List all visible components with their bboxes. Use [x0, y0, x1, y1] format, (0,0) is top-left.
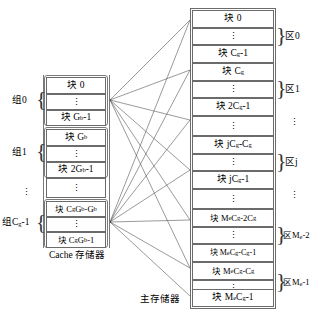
memory-cell-text: -C	[239, 140, 249, 150]
cache-cell-text: 块 0	[67, 81, 84, 91]
memory-cell-block-cg: 块 Cg	[192, 63, 274, 81]
memory-cell-text: 块 C	[222, 67, 241, 77]
cache-cell-text: -1	[86, 165, 94, 175]
cache-group-label-last: 组Cg-1	[2, 218, 30, 228]
memory-cell-text: -1	[246, 293, 254, 303]
cache-cell-text: ⋮	[72, 150, 81, 159]
memory-caption: 主存储器	[132, 295, 188, 305]
memory-zone-label-text: 区M	[283, 230, 300, 240]
memory-cell-text: ⋮	[229, 195, 238, 204]
cache-cell-text: 块 G	[61, 113, 80, 123]
cache-cell-text: -1	[87, 236, 94, 245]
mapping-diagram: 块 0 ⋮ 块 Gb-1 块 Gb ⋮ 块 2Gb-1 ⋮ 块 CgGb-Gb …	[0, 0, 318, 320]
memory-cell-text: -1	[240, 49, 248, 59]
memory-zone-label-dots-1: ⋮	[290, 118, 299, 127]
memory-zone-label-text: -1	[302, 277, 309, 287]
memory-cell-dots-gap-1: ⋮	[192, 116, 274, 136]
memory-zone-label-dots-2: ⋮	[290, 191, 299, 200]
cache-brace-0: {	[36, 88, 47, 110]
memory-cell-text: 块 M	[210, 214, 229, 223]
cache-cell-text: 块 C	[58, 236, 75, 245]
memory-cell-text: -C	[238, 249, 246, 257]
memory-cell-sub: g	[241, 69, 244, 76]
memory-zone-label-text: 区j	[285, 157, 298, 167]
cache-group-label-text: 组1	[12, 147, 27, 157]
memory-cell-dots-b: ⋮	[192, 81, 274, 98]
memory-cell-text: 块 2C	[216, 102, 239, 112]
cache-caption-text: Cache 存储器	[49, 250, 105, 260]
memory-zone-label-text: 区1	[285, 84, 300, 94]
memory-cell-text: 块 jC	[217, 175, 238, 185]
memory-caption-text: 主存储器	[140, 294, 180, 304]
memory-cell-block-jcg-1: 块 jCg-1	[192, 171, 274, 189]
memory-cell-text: ⋮	[229, 85, 238, 94]
memory-cell-text: 块 M	[212, 293, 233, 303]
memory-zone-label-text: 区M	[283, 277, 300, 287]
memory-cell-text: ⋮	[229, 32, 238, 41]
memory-zone-label-text: 区0	[285, 31, 300, 41]
memory-cell-block-mecg-1: 块 MeCg-1	[192, 289, 274, 307]
memory-cell-sub: g	[251, 268, 254, 275]
memory-cell-block-mecg-2cg: 块 MeCg-2Cg	[192, 209, 274, 227]
cache-cell-text: -1	[83, 113, 91, 123]
memory-cell-block-cg-1: 块 Cg-1	[192, 45, 274, 63]
cache-group-label-0: 组0	[12, 96, 27, 106]
memory-cell-sub: g	[253, 215, 256, 222]
cache-group-label-text: -1	[22, 217, 30, 227]
cache-cell-sub: b	[84, 134, 87, 141]
cache-cell-block-2gb-1: 块 2Gb-1	[46, 162, 106, 178]
memory-cell-block-2cg-1: 块 2Cg-1	[192, 98, 274, 116]
cache-group-label-text: ⋮	[22, 187, 31, 197]
memory-cell-block-mecg-cg: 块 MeCg-Cg	[192, 262, 274, 280]
cache-cell-text: 块 G	[65, 133, 84, 143]
cache-group-label-text: 组0	[12, 95, 27, 105]
cache-group-label-1: 组1	[12, 148, 27, 158]
cache-cell-text: 块 C	[55, 205, 72, 214]
memory-zone-label-text: -2	[302, 230, 309, 240]
memory-cell-block-0: 块 0	[192, 10, 274, 28]
memory-cell-dots-c: ⋮	[192, 154, 274, 171]
cache-cell-block-cggb-1: 块 CgGb-1	[46, 232, 106, 248]
cache-cell-text: ⋮	[72, 98, 81, 107]
memory-cell-block-jcg-cg: 块 jCg-Cg	[192, 136, 274, 154]
cache-caption: Cache 存储器	[38, 251, 116, 261]
cache-cell-sub: b	[94, 206, 97, 213]
cache-cell-dots-last: ⋮	[46, 217, 106, 232]
memory-cell-text: -1	[242, 102, 250, 112]
cache-cell-text: ⋮	[72, 220, 81, 229]
cache-brace-last: {	[36, 212, 46, 233]
memory-cell-text: -1	[241, 175, 249, 185]
memory-zone-label-0: 区0	[285, 32, 300, 42]
memory-zone-label-text: ⋮	[290, 117, 299, 127]
memory-cell-dots-a: ⋮	[192, 28, 274, 45]
memory-zone-label-1: 区1	[285, 85, 300, 95]
memory-cell-text: -2C	[240, 214, 253, 223]
memory-cell-text: 块 M	[212, 267, 231, 276]
memory-cell-block-mecg-cg-1: 块 MeCg-Cg-1	[192, 244, 274, 262]
memory-cell-text: 块 0	[224, 14, 241, 24]
cache-group-label-dots: ⋮	[22, 188, 31, 197]
memory-cell-dots-d: ⋮	[192, 227, 274, 244]
memory-cell-text: -1	[250, 249, 257, 257]
memory-cell-text: ⋮	[229, 122, 238, 131]
cache-group-label-text: 组C	[2, 217, 18, 227]
cache-cell-block-gb: 块 Gb	[46, 129, 106, 146]
cache-cell-text: ⋮	[72, 184, 81, 193]
memory-cell-text: 块 C	[218, 49, 237, 59]
memory-cell-text: -C	[242, 267, 251, 276]
cache-cell-dots-0: ⋮	[46, 94, 106, 110]
memory-cell-text: ⋮	[229, 158, 238, 167]
cache-cell-block-0: 块 0	[46, 77, 106, 94]
cache-cell-dots-1: ⋮	[46, 146, 106, 162]
cache-right-rail	[109, 75, 110, 248]
memory-zone-label-me-1: 区Me-1	[283, 278, 310, 288]
memory-cell-dots-gap-2: ⋮	[192, 189, 274, 209]
memory-cell-text: ⋮	[229, 231, 238, 240]
memory-zone-label-j: 区j	[285, 158, 298, 168]
memory-zone-label-me-2: 区Me-2	[283, 231, 310, 241]
memory-cell-sub: g	[248, 142, 251, 149]
cache-brace-1: {	[36, 140, 47, 162]
cache-cell-dots-mid: ⋮	[46, 178, 106, 198]
cache-cell-text: -G	[85, 205, 94, 214]
memory-cell-text: 块 M	[210, 249, 227, 257]
